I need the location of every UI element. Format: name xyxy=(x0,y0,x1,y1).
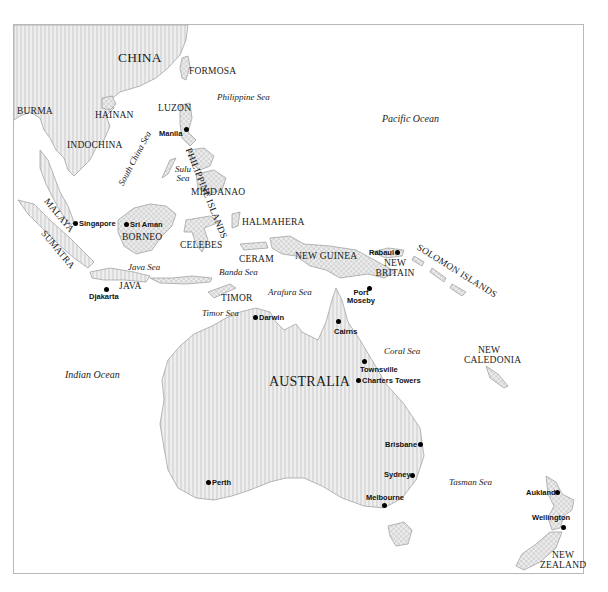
label-arafura-sea: Arafura Sea xyxy=(268,288,312,297)
city-dot-wellington xyxy=(561,525,566,530)
city-label-manila: Manila xyxy=(159,130,182,138)
label-australia: AUSTRALIA xyxy=(269,375,350,389)
label-sulu-sea: Sulu Sea xyxy=(171,165,195,183)
city-label-rabaul: Rabaul xyxy=(369,249,394,257)
label-borneo: BORNEO xyxy=(122,233,162,243)
label-philippine-sea: Philippine Sea xyxy=(217,93,270,102)
city-dot-townsville xyxy=(362,359,367,364)
label-tasman-sea: Tasman Sea xyxy=(449,478,492,487)
label-new-caledonia-line2: CALEDONIA xyxy=(464,356,514,366)
city-dot-charters-towers xyxy=(356,378,361,383)
label-new-caledonia: NEW CALEDONIA xyxy=(464,346,514,365)
city-label-port-moseby-line2: Moseby xyxy=(345,297,377,305)
label-java-sea: Java Sea xyxy=(128,263,160,272)
tasmania-island xyxy=(388,522,412,546)
city-dot-cairns xyxy=(336,319,341,324)
city-label-melbourne: Melbourne xyxy=(366,494,404,502)
halmahera-island xyxy=(232,212,240,228)
city-label-singapore: Singapore xyxy=(79,220,116,228)
city-dot-sri-aman xyxy=(124,222,129,227)
city-label-cairns: Cairns xyxy=(334,328,357,336)
label-indian-ocean: Indian Ocean xyxy=(65,370,120,380)
label-sulu-sea-line2: Sea xyxy=(171,174,195,183)
label-indochina: INDOCHINA xyxy=(67,141,123,151)
city-label-charters-towers: Charters Towers xyxy=(362,377,421,385)
label-ceram: CERAM xyxy=(239,255,274,265)
city-dot-rabaul xyxy=(395,250,400,255)
pacific-war-map: CHINA BURMA HAINAN INDOCHINA FORMOSA LUZ… xyxy=(0,0,608,592)
label-new-britain: NEW BRITAIN xyxy=(375,259,415,278)
label-timor: TIMOR xyxy=(221,294,253,304)
borneo-island xyxy=(118,204,176,254)
label-new-zealand: NEW ZEALAND xyxy=(540,551,586,570)
city-label-sri-aman: Sri Aman xyxy=(130,221,163,229)
lesser-sunda-islands xyxy=(150,276,212,284)
city-dot-singapore xyxy=(73,221,78,226)
city-dot-perth xyxy=(206,480,211,485)
city-dot-melbourne xyxy=(382,503,387,508)
label-celebes: CELEBES xyxy=(180,241,223,251)
city-label-perth: Perth xyxy=(212,479,231,487)
label-java: JAVA xyxy=(119,282,142,292)
city-label-townsville: Townsville xyxy=(360,366,398,374)
label-new-britain-line2: BRITAIN xyxy=(375,269,415,279)
city-label-sydney: Sydney xyxy=(384,471,411,479)
city-label-port-moseby: Port Moseby xyxy=(345,289,377,306)
label-hainan: HAINAN xyxy=(95,111,134,121)
city-label-brisbane: Brisbane xyxy=(385,441,417,449)
label-mindanao: MINDANAO xyxy=(191,188,245,198)
new-caledonia-island xyxy=(486,366,508,388)
city-label-djakarta: Djakarta xyxy=(89,293,119,301)
city-label-darwin: Darwin xyxy=(259,314,284,322)
label-luzon: LUZON xyxy=(158,104,191,114)
label-coral-sea: Coral Sea xyxy=(384,347,420,356)
label-halmahera: HALMAHERA xyxy=(242,218,305,228)
city-dot-darwin xyxy=(253,315,258,320)
city-dot-manila xyxy=(184,127,189,132)
label-new-zealand-line2: ZEALAND xyxy=(540,561,586,571)
label-new-guinea: NEW GUINEA xyxy=(295,252,357,262)
label-formosa: FORMOSA xyxy=(189,67,236,77)
ceram-island xyxy=(240,242,268,250)
label-timor-sea: Timor Sea xyxy=(202,309,239,318)
city-label-aukland: Aukland xyxy=(526,489,556,497)
label-burma: BURMA xyxy=(17,107,53,117)
label-banda-sea: Banda Sea xyxy=(219,268,258,277)
label-pacific-ocean: Pacific Ocean xyxy=(382,114,439,124)
city-label-wellington: Wellington xyxy=(532,514,570,522)
label-china: CHINA xyxy=(118,51,162,65)
city-dot-brisbane xyxy=(418,442,423,447)
